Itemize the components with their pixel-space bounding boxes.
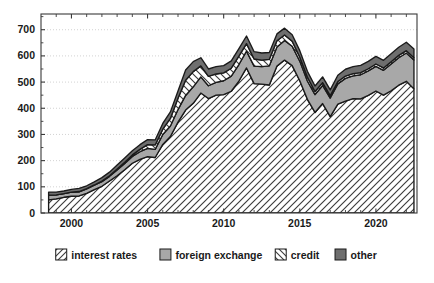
x-tick-label: 2000 (60, 217, 84, 229)
y-tick-label: 400 (17, 102, 35, 114)
legend-item-other[interactable]: other (335, 249, 377, 261)
x-tick-label: 2010 (212, 217, 236, 229)
x-tick-label: 2005 (136, 217, 160, 229)
chart-figure: 0100200300400500600700 20002005201020152… (0, 0, 434, 283)
dark-gray-swatch (335, 249, 346, 260)
y-tick-label: 300 (17, 128, 35, 140)
legend-label: other (351, 249, 377, 261)
y-tick-label: 100 (17, 180, 35, 192)
y-tick-label: 500 (17, 76, 35, 88)
legend-item-credit[interactable]: credit (275, 249, 320, 261)
legend-label: credit (291, 249, 320, 261)
x-tick-label: 2020 (364, 217, 388, 229)
y-tick-label: 200 (17, 154, 35, 166)
back-hatch-swatch (275, 249, 286, 260)
y-tick-label: 600 (17, 49, 35, 61)
legend-label: foreign exchange (175, 249, 262, 261)
x-tick-label: 2015 (288, 217, 312, 229)
y-tick-label: 700 (17, 23, 35, 35)
light-gray-swatch (160, 249, 171, 260)
stacked-area-chart: 0100200300400500600700 20002005201020152… (0, 0, 434, 283)
y-tick-label: 0 (29, 207, 35, 219)
legend-item-foreign-exchange[interactable]: foreign exchange (160, 249, 263, 261)
legend-label: interest rates (71, 249, 137, 261)
forward-hatch-swatch (56, 249, 67, 260)
